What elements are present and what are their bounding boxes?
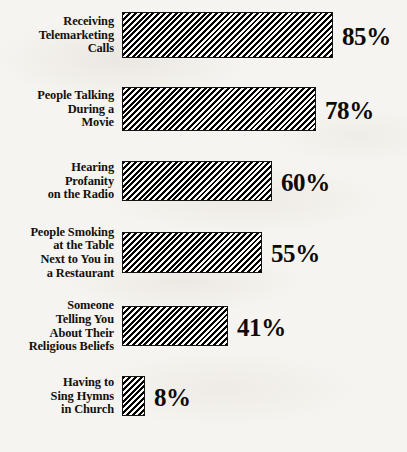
chart-row: Having to Sing Hymns in Church 8%: [0, 376, 407, 416]
bar: [122, 161, 272, 201]
bar: [122, 87, 316, 131]
chart-row: Hearing Profanity on the Radio 60%: [0, 161, 407, 201]
bar-category-label: Hearing Profanity on the Radio: [0, 161, 114, 202]
bar-value-label: 78%: [325, 98, 374, 123]
bar-category-label: People Smoking at the Table Next to You …: [0, 226, 114, 280]
bar-category-label: Having to Sing Hymns in Church: [0, 376, 114, 417]
bar-category-label: Receiving Telemarketing Calls: [0, 15, 114, 56]
bar-value-label: 85%: [342, 24, 391, 49]
bar-category-label: People Talking During a Movie: [0, 89, 114, 130]
chart-row: People Smoking at the Table Next to You …: [0, 232, 407, 273]
chart-row: People Talking During a Movie 78%: [0, 87, 407, 131]
bar: [122, 376, 145, 416]
horizontal-bar-chart: Receiving Telemarketing Calls 85% People…: [0, 0, 407, 452]
bar-value-label: 55%: [271, 241, 320, 266]
bar: [122, 232, 262, 273]
bar: [122, 306, 228, 346]
bar-value-label: 60%: [281, 170, 330, 195]
bar: [122, 12, 333, 58]
bar-value-label: 8%: [154, 385, 191, 410]
chart-row: Someone Telling You About Their Religiou…: [0, 306, 407, 346]
bar-value-label: 41%: [237, 315, 286, 340]
bar-category-label: Someone Telling You About Their Religiou…: [0, 299, 114, 353]
chart-row: Receiving Telemarketing Calls 85%: [0, 12, 407, 58]
